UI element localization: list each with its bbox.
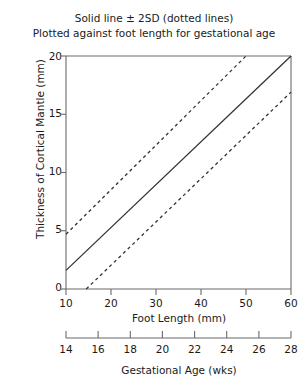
x-tick-label-60: 60 (279, 297, 303, 309)
x-tick-label-40: 40 (189, 297, 213, 309)
secondary-x-tick-label-28: 28 (279, 343, 303, 355)
x-tick-label-10: 10 (54, 297, 78, 309)
x-axis-label: Foot Length (mm) (66, 312, 292, 324)
secondary-x-tick-label-20: 20 (150, 343, 174, 355)
secondary-x-tick-label-14: 14 (54, 343, 78, 355)
plot-frame (66, 56, 291, 289)
series-minus2sd-line (86, 92, 291, 289)
y-axis-ticks (60, 56, 66, 289)
chart-figure: Solid line ± 2SD (dotted lines) Plotted … (0, 0, 308, 392)
secondary-x-tick-label-24: 24 (215, 343, 239, 355)
chart-canvas (0, 0, 308, 392)
secondary-x-tick-label-26: 26 (247, 343, 271, 355)
x-tick-label-30: 30 (144, 297, 168, 309)
secondary-x-tick-label-16: 16 (86, 343, 110, 355)
series-plus2sd-line (66, 56, 246, 234)
secondary-x-tick-label-22: 22 (183, 343, 207, 355)
x-tick-label-20: 20 (99, 297, 123, 309)
x-tick-label-50: 50 (234, 297, 258, 309)
series-mean-line (66, 56, 291, 270)
secondary-x-axis-label: Gestational Age (wks) (66, 364, 292, 376)
secondary-x-axis (66, 331, 291, 338)
secondary-x-tick-label-18: 18 (118, 343, 142, 355)
x-axis-ticks (66, 289, 291, 295)
